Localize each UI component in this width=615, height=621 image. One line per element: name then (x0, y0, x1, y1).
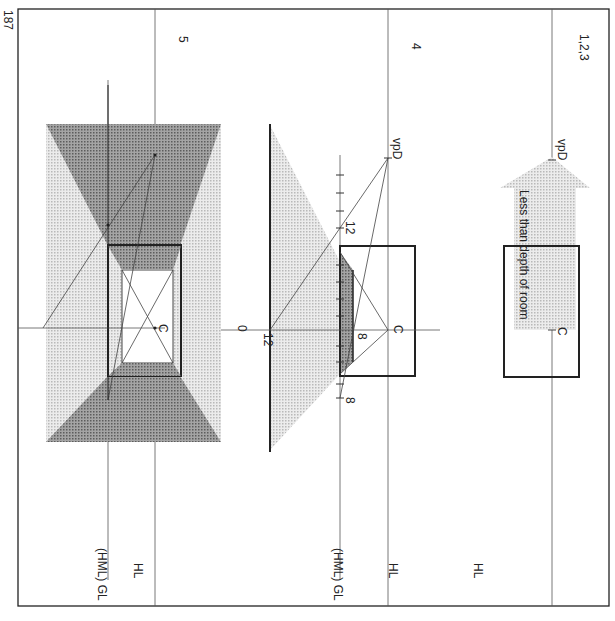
panel-4: 4 HL (HML) GL (214, 43, 440, 601)
tick-8-outer: 8 (343, 397, 357, 404)
center-label: C (555, 327, 569, 336)
hl-label: HL (471, 563, 485, 579)
panel-title: 5 (176, 36, 190, 43)
measure-point (106, 223, 109, 226)
vpd-label: vpD (555, 139, 569, 161)
center-label: C (391, 325, 405, 334)
zero-label: 0 (235, 325, 249, 332)
tick-12-bottom: 12 (261, 333, 275, 347)
page-number: 187 (1, 10, 15, 30)
tick-12-top: 12 (343, 221, 357, 235)
panel-title: 1,2,3 (577, 34, 591, 61)
hl-label: HL (386, 563, 400, 579)
panel-title: 4 (409, 43, 423, 50)
arrow-text: Less than depth of room (517, 190, 531, 319)
floor-shading (270, 125, 340, 450)
hl-label: HL (131, 563, 145, 579)
vpd-label: vpD (390, 138, 404, 160)
gl-label: (HML) GL (95, 548, 109, 601)
depth-arrow (500, 157, 590, 330)
perspective-diagram-page: 187 1,2,3 HL vpD C Less than depth of ro… (0, 0, 615, 621)
panel-1-2-3: 1,2,3 HL vpD C Less than depth of room (471, 9, 591, 606)
gl-label: (HML) GL (331, 548, 345, 601)
tick-8-inner: 8 (355, 333, 369, 340)
center-label: C (156, 324, 170, 333)
panel-5: 5 HL (HML) GL C (18, 36, 221, 601)
vanishing-point (153, 153, 156, 156)
